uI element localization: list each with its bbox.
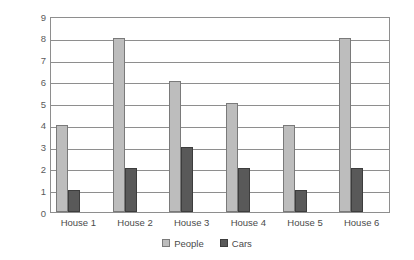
y-axis-tick-labels: 0123456789 (28, 11, 46, 219)
bar-chart: Number of people/cars 0123456789 House 1… (0, 0, 414, 260)
y-tick-label: 4 (28, 120, 46, 131)
bar-group (334, 18, 391, 212)
x-tick-label: House 5 (277, 216, 334, 230)
bar-people-4 (226, 103, 238, 212)
x-tick-label: House 4 (220, 216, 277, 230)
bar-group (278, 18, 335, 212)
legend-item-cars: Cars (220, 238, 252, 249)
bar-group (221, 18, 278, 212)
y-tick-label: 2 (28, 164, 46, 175)
bar-group (164, 18, 221, 212)
bar-cars-1 (68, 190, 80, 212)
bar-cars-6 (351, 168, 363, 212)
y-tick-label: 6 (28, 77, 46, 88)
x-axis-tick-labels: House 1House 2House 3House 4House 5House… (50, 216, 390, 230)
y-tick-label: 5 (28, 99, 46, 110)
x-tick-label: House 6 (333, 216, 390, 230)
y-tick-label: 1 (28, 186, 46, 197)
y-tick-label: 3 (28, 142, 46, 153)
bar-group (108, 18, 165, 212)
bar-people-2 (113, 38, 125, 212)
legend-label: Cars (232, 238, 252, 249)
bar-group (51, 18, 108, 212)
plot-area (50, 17, 390, 213)
x-tick-label: House 1 (50, 216, 107, 230)
x-tick-label: House 2 (107, 216, 164, 230)
y-tick-label: 9 (28, 12, 46, 23)
x-tick-label: House 3 (163, 216, 220, 230)
bars-layer (51, 18, 389, 212)
y-tick-label: 8 (28, 33, 46, 44)
bar-cars-4 (238, 168, 250, 212)
bar-cars-5 (295, 190, 307, 212)
bar-people-5 (283, 125, 295, 212)
legend-item-people: People (162, 238, 204, 249)
legend-swatch-icon (162, 239, 170, 247)
bar-cars-3 (181, 147, 193, 212)
legend-label: People (174, 238, 204, 249)
chart-legend: PeopleCars (0, 235, 414, 251)
bar-people-6 (339, 38, 351, 212)
bar-people-3 (169, 81, 181, 212)
bar-people-1 (56, 125, 68, 212)
y-tick-label: 0 (28, 208, 46, 219)
legend-swatch-icon (220, 239, 228, 247)
y-tick-label: 7 (28, 55, 46, 66)
bar-cars-2 (125, 168, 137, 212)
